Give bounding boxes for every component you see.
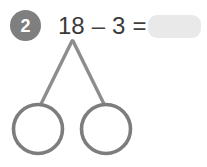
problem-number-label: 2 xyxy=(20,17,30,35)
bond-part-circle-right[interactable] xyxy=(82,105,131,154)
minus-operator-icon: – xyxy=(92,14,105,38)
bond-part-circle-left[interactable] xyxy=(14,105,63,154)
bond-branch-right xyxy=(73,41,104,104)
equals-operator-icon: = xyxy=(132,14,146,38)
worksheet-problem: 2 18 – 3 = xyxy=(0,0,207,167)
equation: 18 – 3 = xyxy=(58,11,146,41)
equation-left-operand: 18 xyxy=(58,14,85,38)
problem-number-badge: 2 xyxy=(10,10,41,41)
equation-right-operand: 3 xyxy=(112,14,125,38)
bond-branch-left xyxy=(41,41,72,104)
answer-input-blank[interactable] xyxy=(148,15,201,38)
